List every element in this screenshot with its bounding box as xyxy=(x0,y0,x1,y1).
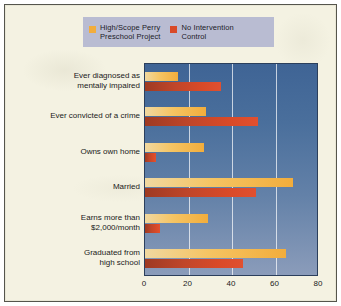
bar-group xyxy=(145,100,317,136)
bar xyxy=(145,143,204,152)
bar-group xyxy=(145,206,317,242)
bar-group xyxy=(145,64,317,100)
chart-legend: High/Scope Perry Preschool Project No In… xyxy=(83,17,274,47)
x-tick-label: 80 xyxy=(314,279,323,289)
bar-group xyxy=(145,171,317,207)
category-label: Graduated from high school xyxy=(19,248,140,268)
bar xyxy=(145,178,293,187)
legend-label-program: High/Scope Perry Preschool Project xyxy=(100,23,160,42)
bar xyxy=(145,107,206,116)
legend-swatch-control xyxy=(170,26,177,33)
plot-area xyxy=(144,63,318,276)
bar-group xyxy=(145,135,317,171)
x-tick-label: 40 xyxy=(227,279,236,289)
x-tick-label: 20 xyxy=(183,279,192,289)
x-tick-label: 60 xyxy=(270,279,279,289)
figure-frame: High/Scope Perry Preschool Project No In… xyxy=(4,4,337,302)
legend-entry-control: No Intervention Control xyxy=(170,23,233,42)
bar xyxy=(145,72,178,81)
category-label: Earns more than $2,000/month xyxy=(19,213,140,233)
category-axis-labels: Ever diagnosed as mentally impairedEver … xyxy=(19,63,140,276)
bars-layer xyxy=(145,64,317,275)
x-tick-label: 0 xyxy=(142,279,146,289)
bar xyxy=(145,117,258,126)
x-axis-tick-labels: 020406080 xyxy=(144,276,318,294)
bar xyxy=(145,153,156,162)
bar xyxy=(145,224,160,233)
bar xyxy=(145,188,256,197)
legend-label-control: No Intervention Control xyxy=(181,23,233,42)
category-label: Owns own home xyxy=(19,147,140,157)
bar-group xyxy=(145,242,317,277)
bar xyxy=(145,249,286,258)
bar xyxy=(145,82,221,91)
category-label: Married xyxy=(19,182,140,192)
category-label: Ever convicted of a crime xyxy=(19,111,140,121)
category-label: Ever diagnosed as mentally impaired xyxy=(19,71,140,91)
bar xyxy=(145,259,243,268)
legend-entry-program: High/Scope Perry Preschool Project xyxy=(89,23,160,42)
legend-swatch-program xyxy=(89,26,96,33)
bar xyxy=(145,214,208,223)
